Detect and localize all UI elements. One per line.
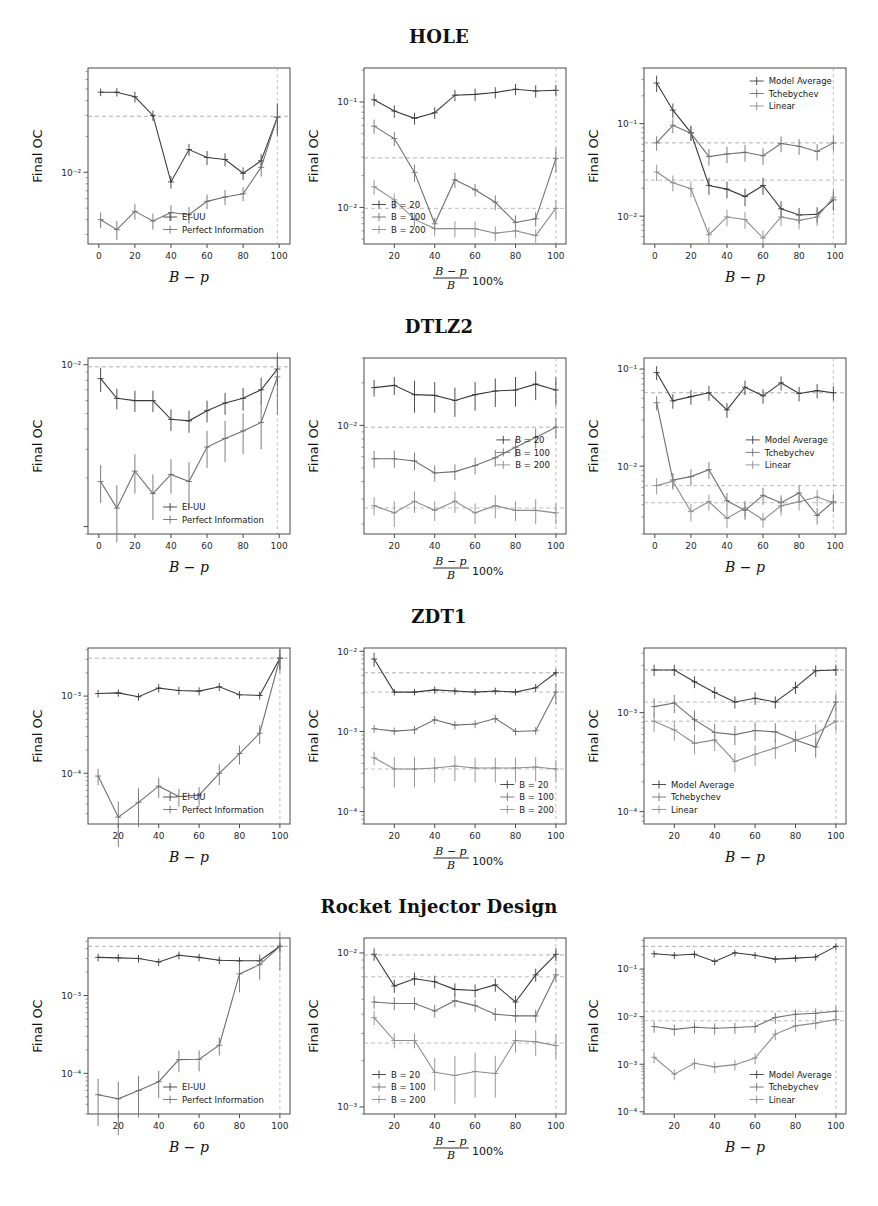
y-axis-label: Final OC <box>306 709 321 762</box>
x-tick-label: 80 <box>793 541 805 551</box>
panel-hole-col3: 10⁻¹10⁻²020406080100Model AverageTchebyc… <box>572 50 858 306</box>
chart-zdt1-col2: 10⁻²10⁻³10⁻⁴20406080100B = 20B = 100B = … <box>292 630 578 886</box>
x-axis-label-fraction: B − pB100% <box>433 1135 503 1162</box>
x-tick-label: 60 <box>193 831 205 841</box>
svg-text:100%: 100% <box>472 855 503 868</box>
y-tick-label: 10⁻⁴ <box>617 1107 637 1117</box>
y-tick-label: 10⁻³ <box>617 708 637 718</box>
legend-label: B = 200 <box>515 460 550 470</box>
chart-zdt1-col1: 10⁻³10⁻⁴20406080100EI-UUPerfect Informat… <box>16 630 302 886</box>
x-tick-label: 20 <box>129 541 141 551</box>
series-1 <box>95 650 283 701</box>
panel-dtlz2-col1: 10⁻²020406080100EI-UUPerfect Information… <box>16 340 302 596</box>
svg-text:100%: 100% <box>472 565 503 578</box>
legend-label: B = 100 <box>391 1082 426 1092</box>
panel-dtlz2-col2: 10⁻²20406080100B = 20B = 100B = 200Final… <box>292 340 578 596</box>
row-title-zdt1: ZDT1 <box>0 606 878 627</box>
legend-label: Linear <box>671 805 698 815</box>
svg-text:B: B <box>446 859 455 872</box>
chart-dtlz2-col3: 10⁻¹10⁻²020406080100Model AverageTchebyc… <box>572 340 858 596</box>
x-tick-label: 100 <box>547 251 564 261</box>
legend: B = 20B = 100B = 200 <box>496 435 550 470</box>
y-tick-label: 10⁻² <box>337 948 357 958</box>
x-tick-label: 40 <box>165 541 177 551</box>
chart-rocket-col3: 10⁻¹10⁻²10⁻³10⁻⁴20406080100Model Average… <box>572 920 858 1176</box>
x-tick-label: 100 <box>547 541 564 551</box>
series-line <box>654 1020 836 1075</box>
x-tick-label: 0 <box>96 251 102 261</box>
y-tick-label: 10⁻³ <box>61 691 81 701</box>
svg-text:B − p: B − p <box>434 845 466 858</box>
legend-label: Tchebychev <box>670 792 721 802</box>
legend-label: Linear <box>765 460 792 470</box>
legend: B = 20B = 100B = 200 <box>500 780 554 815</box>
x-tick-label: 20 <box>389 251 401 261</box>
x-tick-label: 20 <box>129 251 141 261</box>
chart-hole-col3: 10⁻¹10⁻²020406080100Model AverageTchebyc… <box>572 50 858 306</box>
y-tick-label: 10⁻² <box>337 421 357 431</box>
x-tick-label: 60 <box>469 1121 481 1131</box>
svg-text:B: B <box>446 279 455 292</box>
x-tick-label: 80 <box>234 1121 246 1131</box>
panel-hole-col2: 10⁻¹10⁻²20406080100B = 20B = 100B = 200F… <box>292 50 578 306</box>
panel-zdt1-col2: 10⁻²10⁻³10⁻⁴20406080100B = 20B = 100B = … <box>292 630 578 886</box>
legend-label: EI-UU <box>182 792 205 802</box>
y-tick-label: 10⁻³ <box>617 1060 637 1070</box>
legend-label: Linear <box>769 1095 796 1105</box>
legend: Model AverageTchebychevLinear <box>750 76 832 111</box>
svg-text:100%: 100% <box>472 1145 503 1158</box>
legend: Model AverageTchebychevLinear <box>652 780 734 815</box>
y-tick-label: 10⁻¹ <box>617 364 637 374</box>
svg-text:B − p: B − p <box>434 1135 466 1148</box>
x-axis-label: B − p <box>724 849 765 865</box>
x-tick-label: 60 <box>201 541 213 551</box>
x-axis-label: B − p <box>724 269 765 285</box>
legend-label: Perfect Information <box>182 805 264 815</box>
legend-label: Model Average <box>769 1070 832 1080</box>
series-line <box>654 1011 836 1029</box>
x-tick-label: 60 <box>757 541 769 551</box>
x-tick-label: 40 <box>721 251 733 261</box>
x-tick-label: 100 <box>547 831 564 841</box>
x-tick-label: 40 <box>153 1121 165 1131</box>
legend-label: B = 200 <box>391 225 426 235</box>
series-line <box>374 659 556 692</box>
y-tick-label: 10⁻³ <box>337 1102 357 1112</box>
chart-zdt1-col3: 10⁻³10⁻⁴20406080100Model AverageTchebych… <box>572 630 858 886</box>
row-title-rocket: Rocket Injector Design <box>0 896 878 917</box>
x-tick-label: 20 <box>685 541 697 551</box>
series-line <box>374 954 556 1002</box>
legend: Model AverageTchebychevLinear <box>746 435 828 470</box>
y-tick-label: 10⁻³ <box>337 727 357 737</box>
series-line <box>374 89 556 118</box>
series-1 <box>371 653 559 696</box>
x-tick-label: 60 <box>749 1121 761 1131</box>
x-axis-label-fraction: B − pB100% <box>433 265 503 292</box>
x-tick-label: 20 <box>669 1121 681 1131</box>
legend-label: EI-UU <box>182 1082 205 1092</box>
y-tick-label: 10⁻³ <box>61 991 81 1001</box>
series-1 <box>371 371 559 416</box>
x-axis-label: B − p <box>168 269 209 285</box>
legend-label: Perfect Information <box>182 225 264 235</box>
legend-label: B = 20 <box>391 200 420 210</box>
legend-label: EI-UU <box>182 502 205 512</box>
series-3 <box>371 492 559 528</box>
x-tick-label: 20 <box>389 831 401 841</box>
legend: EI-UUPerfect Information <box>163 502 264 524</box>
row-title-hole: HOLE <box>0 26 878 47</box>
series-line <box>654 670 836 702</box>
x-axis-label: B − p <box>168 559 209 575</box>
x-tick-label: 80 <box>510 251 522 261</box>
y-axis-label: Final OC <box>30 999 45 1052</box>
x-tick-label: 100 <box>827 541 844 551</box>
x-tick-label: 60 <box>469 541 481 551</box>
x-tick-label: 100 <box>271 541 288 551</box>
x-tick-label: 60 <box>749 831 761 841</box>
chart-dtlz2-col2: 10⁻²20406080100B = 20B = 100B = 200Final… <box>292 340 578 596</box>
x-tick-label: 100 <box>827 1121 844 1131</box>
legend-label: B = 200 <box>519 805 554 815</box>
y-tick-label: 10⁻⁴ <box>337 807 357 817</box>
chart-rocket-col1: 10⁻³10⁻⁴20406080100EI-UUPerfect Informat… <box>16 920 302 1176</box>
y-tick-label: 10⁻⁴ <box>61 769 81 779</box>
